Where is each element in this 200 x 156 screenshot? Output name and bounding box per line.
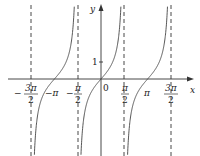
- numerator: 3π: [165, 83, 178, 93]
- x-tick-3pi-2: 3π 2: [164, 83, 178, 105]
- x-tick-neg-pi-2: − π 2: [66, 83, 82, 105]
- numerator: π: [121, 83, 129, 93]
- x-tick-pi-2: π 2: [121, 83, 129, 105]
- denominator: 2: [28, 95, 34, 105]
- denominator: 2: [75, 95, 81, 105]
- y-tick-label-1: 1: [92, 57, 98, 67]
- numerator: 3π: [25, 83, 38, 93]
- x-tick-neg-pi: −π: [45, 88, 60, 98]
- denominator: 2: [122, 95, 128, 105]
- tan-branch-right: [128, 7, 168, 155]
- neg-sign: −: [14, 88, 22, 98]
- x-axis-label: x: [190, 85, 195, 95]
- denominator: 2: [168, 95, 174, 105]
- tan-branch-left: [34, 7, 74, 155]
- origin-label: 0: [103, 83, 109, 93]
- x-tick-neg-3pi-2: − 3π 2: [14, 83, 38, 105]
- neg-sign: −: [66, 88, 74, 98]
- y-axis-label: y: [89, 4, 96, 14]
- y-axis-arrow-icon: [99, 4, 104, 11]
- x-axis-arrow-icon: [187, 77, 194, 82]
- numerator: π: [74, 83, 82, 93]
- x-tick-pi: π: [143, 88, 151, 98]
- tangent-graph: y x 1 0 − 3π 2 −π − π 2 π 2 π 3π 2: [0, 0, 200, 156]
